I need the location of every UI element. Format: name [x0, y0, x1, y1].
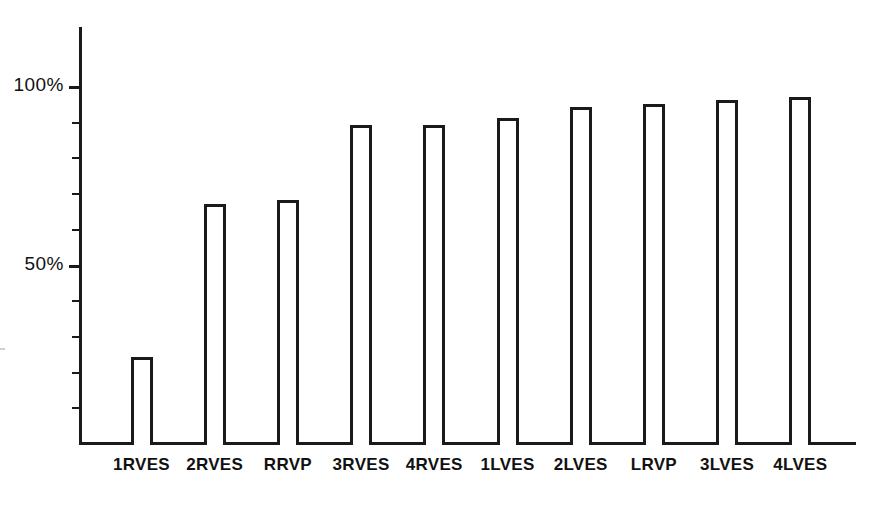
bar-chart-figure: 100%50% 1RVES2RVESRRVP3RVES4RVES1LVES2LV…	[0, 0, 879, 512]
bars-layer	[0, 0, 879, 512]
bar	[789, 97, 811, 445]
bar	[497, 118, 519, 445]
bar	[570, 107, 592, 445]
bar	[277, 200, 299, 445]
x-axis-tick-label: 4LVES	[755, 455, 845, 475]
bar	[423, 125, 445, 445]
bar	[131, 357, 153, 445]
bar	[350, 125, 372, 445]
bar	[643, 104, 665, 445]
bar	[716, 100, 738, 445]
bar	[204, 204, 226, 445]
